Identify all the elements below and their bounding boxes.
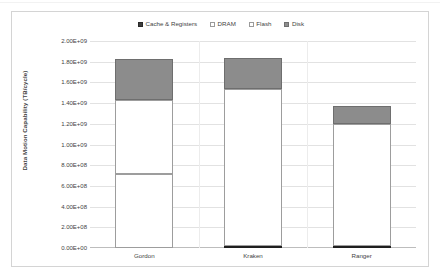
legend-swatch-flash-icon (249, 22, 254, 27)
legend-label-flash: Flash (256, 21, 271, 27)
bar-ranger[interactable] (333, 41, 391, 248)
bar-segment-flash[interactable] (115, 100, 173, 174)
bar-segment-flash[interactable] (333, 124, 391, 246)
chart-page: Cache & Registers DRAM Flash Disk Data M… (0, 0, 440, 278)
page-top-rule (0, 2, 440, 3)
bar-segment-cache-registers[interactable] (333, 246, 391, 248)
legend-item-dram[interactable]: DRAM (210, 21, 236, 27)
legend-swatch-disk-icon (284, 22, 289, 27)
y-axis-tick-label: 6.00E+08 (15, 183, 87, 189)
legend-swatch-cache-registers-icon (138, 22, 143, 27)
category-separator (307, 41, 308, 248)
bar-segment-cache-registers[interactable] (224, 246, 282, 248)
y-axis-tick-label: 1.00E+09 (15, 142, 87, 148)
x-axis-tick-label: Kraken (243, 252, 263, 259)
plot-area (90, 41, 416, 248)
legend-label-dram: DRAM (218, 21, 236, 27)
y-axis-tick-label: 0.00E+00 (15, 245, 87, 251)
bar-gordon[interactable] (115, 41, 173, 248)
bar-segment-disk[interactable] (333, 106, 391, 124)
legend-item-disk[interactable]: Disk (284, 21, 304, 27)
bar-segment-disk[interactable] (224, 58, 282, 89)
y-axis-tick-label: 1.40E+09 (15, 100, 87, 106)
x-axis-tick-labels: GordonKrakenRanger (90, 252, 416, 266)
x-axis-tick-label: Gordon (134, 252, 155, 259)
y-axis-tick-label: 4.00E+08 (15, 204, 87, 210)
y-axis-tick-labels: 0.00E+002.00E+084.00E+086.00E+088.00E+08… (12, 41, 87, 248)
y-axis-tick-label: 1.20E+09 (15, 121, 87, 127)
chart-frame: Cache & Registers DRAM Flash Disk Data M… (11, 11, 429, 267)
y-axis-tick-label: 2.00E+08 (15, 224, 87, 230)
y-axis-tick-label: 1.60E+09 (15, 79, 87, 85)
bar-segment-dram[interactable] (115, 174, 173, 248)
legend-item-cache-registers[interactable]: Cache & Registers (138, 21, 197, 27)
category-separator (199, 41, 200, 248)
x-axis-tick-label: Ranger (352, 252, 372, 259)
bar-segment-disk[interactable] (115, 59, 173, 100)
y-axis-tick-label: 1.80E+09 (15, 59, 87, 65)
legend-item-flash[interactable]: Flash (249, 21, 272, 27)
legend-label-cache-registers: Cache & Registers (146, 21, 198, 27)
legend-label-disk: Disk (292, 21, 304, 27)
y-axis-tick-label: 2.00E+09 (15, 38, 87, 44)
bar-kraken[interactable] (224, 41, 282, 248)
bar-segment-flash[interactable] (224, 89, 282, 246)
y-axis-tick-label: 8.00E+08 (15, 162, 87, 168)
chart-legend: Cache & Registers DRAM Flash Disk (12, 21, 430, 27)
legend-swatch-dram-icon (210, 22, 215, 27)
